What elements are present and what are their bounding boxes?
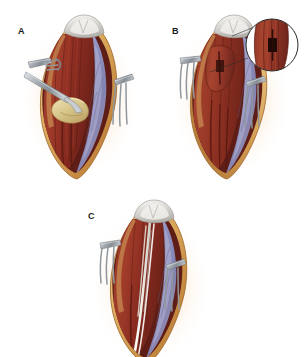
patella-a	[64, 15, 104, 38]
surgical-illustration	[0, 0, 305, 357]
panel-label-a: A	[18, 26, 25, 36]
panel-label-c: C	[88, 211, 95, 221]
patella-c	[134, 200, 174, 223]
panel-label-b: B	[172, 26, 179, 36]
illustration-canvas: A B C	[0, 0, 305, 357]
